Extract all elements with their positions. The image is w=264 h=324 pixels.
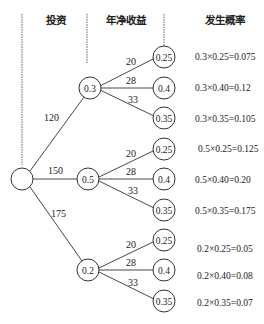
result-prob: 0.2×0.35=0.07 [197, 298, 253, 308]
leaf-prob-label: 0.4 [158, 84, 170, 94]
leaf-prob-label: 0.25 [156, 53, 173, 63]
income-label: 20 [126, 239, 136, 250]
result-prob: 0.3×0.40=0.12 [195, 83, 251, 93]
result-prob: 0.5×0.40=0.20 [195, 175, 251, 185]
edge-root-to-0.2 [30, 187, 82, 261]
chance-node-label: 0.5 [82, 175, 94, 185]
result-prob: 0.3×0.35=0.105 [195, 114, 256, 124]
edge-root-to-0.3 [30, 97, 84, 171]
income-label: 20 [126, 148, 136, 159]
header-net-income: 年净收益 [106, 12, 146, 27]
leaf-prob-label: 0.25 [156, 145, 173, 155]
result-prob: 0.5×0.35=0.175 [195, 206, 256, 216]
edge [99, 272, 154, 299]
leaf-prob-label: 0.35 [156, 297, 173, 307]
leaf-prob-label: 0.35 [156, 114, 173, 124]
leaf-prob-label: 0.4 [158, 266, 170, 276]
result-prob: 0.2×0.40=0.08 [197, 271, 253, 281]
root-decision-node [11, 168, 33, 190]
leaf-prob-label: 0.4 [158, 175, 170, 185]
investment-label: 175 [51, 208, 66, 219]
edge [99, 181, 154, 208]
edge [100, 90, 154, 116]
result-prob: 0.3×0.25=0.075 [195, 52, 256, 62]
chance-node-label: 0.2 [82, 266, 94, 276]
leaf-prob-label: 0.35 [156, 206, 173, 216]
investment-label: 150 [48, 165, 63, 176]
income-label: 28 [126, 75, 136, 86]
income-label: 33 [128, 277, 138, 288]
decision-tree-diagram: 0.3 0.5 0.2 120 150 175 0.25 0.4 0.35 0.… [0, 0, 264, 324]
result-prob: 0.2×0.25=0.05 [197, 244, 253, 254]
header-investment: 投资 [46, 12, 66, 27]
income-label: 20 [126, 56, 136, 67]
header-probability: 发生概率 [205, 12, 245, 27]
income-label: 28 [126, 166, 136, 177]
income-label: 28 [126, 257, 136, 268]
result-prob: 0.5×0.25=0.125 [198, 144, 259, 154]
income-label: 33 [128, 185, 138, 196]
income-label: 33 [128, 94, 138, 105]
investment-label: 120 [44, 112, 59, 123]
leaf-prob-label: 0.25 [156, 236, 173, 246]
chance-node-label: 0.3 [84, 84, 96, 94]
